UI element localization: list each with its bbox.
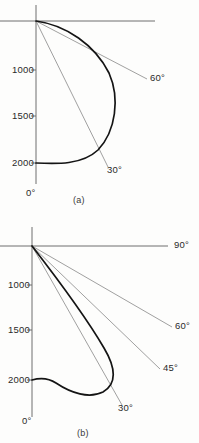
panel-a-caption: (a): [73, 196, 85, 205]
panel-a-plot: [0, 0, 199, 215]
panel-a-angle-label-30: 30°: [107, 165, 122, 175]
panel-b-ray-30: [32, 246, 122, 405]
panel-b-angle-label-0: 0°: [22, 416, 31, 426]
panel-a-angle-label-0: 0°: [26, 188, 35, 198]
figure-root: 1000 1500 2000 0° 30° 60° (a): [0, 0, 199, 443]
panel-b-envelope-curve: [32, 246, 113, 395]
panel-a-tick-label-1000: 1000: [12, 65, 34, 75]
panel-a-tick-label-2000: 2000: [12, 158, 34, 168]
panel-b-angle-label-45: 45°: [163, 363, 178, 373]
panel-b-angle-label-60: 60°: [175, 321, 190, 331]
panel-b-caption: (b): [77, 429, 89, 438]
panel-a-angle-label-60: 60°: [150, 73, 165, 83]
panel-b-tick-label-1000: 1000: [8, 280, 30, 290]
panel-b-tick-label-1500: 1500: [8, 325, 30, 335]
panel-b-angle-label-30: 30°: [118, 403, 133, 413]
panel-b-angle-label-90: 90°: [174, 240, 189, 250]
panel-b: 1000 1500 2000 90° 60° 45° 30° 0° (b): [0, 215, 199, 443]
panel-b-ray-45: [32, 246, 160, 369]
panel-a-ray-30: [36, 21, 108, 167]
panel-a: 1000 1500 2000 0° 30° 60° (a): [0, 0, 199, 215]
panel-a-tick-label-1500: 1500: [12, 111, 34, 121]
panel-b-ray-60: [32, 246, 172, 327]
panel-b-tick-label-2000: 2000: [8, 375, 30, 385]
panel-a-envelope-curve: [36, 21, 115, 164]
